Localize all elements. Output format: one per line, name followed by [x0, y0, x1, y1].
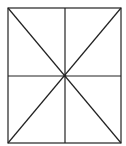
rectangle-division-diagram: [0, 0, 126, 146]
center-point: [64, 75, 67, 78]
division-lines: [8, 8, 121, 143]
